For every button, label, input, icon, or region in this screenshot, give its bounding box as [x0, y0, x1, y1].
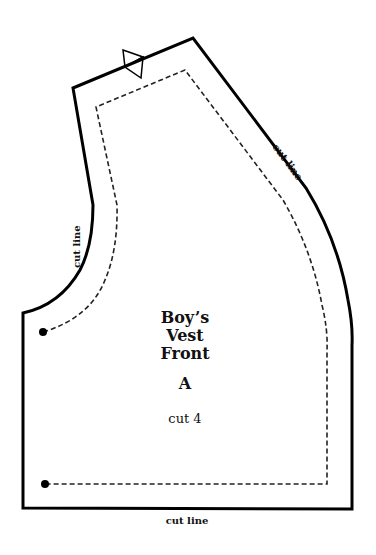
title-line-3: Front	[160, 344, 210, 363]
side-cut-line-label: cut line	[270, 142, 304, 183]
piece-letter: A	[178, 374, 192, 393]
seam-end-dot-icon	[41, 480, 49, 488]
cut-outline	[23, 38, 352, 509]
seam-start-dot-icon	[39, 328, 47, 336]
title-line-2: Vest	[165, 326, 204, 345]
pattern-piece-diagram: cut line cut line cut line Boy’s Vest Fr…	[0, 0, 376, 555]
armhole-cut-line-label: cut line	[71, 225, 82, 268]
bottom-cut-line-label: cut line	[166, 515, 209, 526]
cut-instruction: cut 4	[168, 411, 201, 426]
title-line-1: Boy’s	[161, 308, 210, 327]
